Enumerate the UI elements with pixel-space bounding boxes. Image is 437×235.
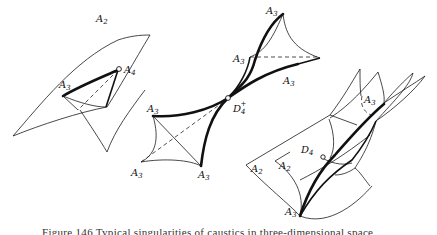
right-surface-d4-minus — [246, 69, 425, 219]
a4-point — [117, 67, 122, 72]
d4-minus-point — [321, 155, 325, 159]
figure-caption: Figure 146 Typical singularities of caus… — [42, 226, 373, 235]
middle-surface-d4-plus — [141, 14, 320, 166]
label-right-a2-right: A2 — [278, 160, 291, 173]
label-right-a2-left: A2 — [250, 163, 263, 176]
label-d4-minus: D4 — [300, 144, 314, 157]
label-right-a3-bottom: A3 — [284, 206, 297, 219]
label-mid-a3-bottom-right: A3 — [197, 169, 210, 182]
label-mid-a3-upper-left: A3 — [232, 53, 245, 66]
label-mid-a3-upper-right: A3 — [282, 75, 295, 88]
label-left-a3: A3 — [58, 79, 71, 92]
label-mid-a3-top: A3 — [265, 5, 278, 18]
label-left-a2: A2 — [95, 13, 108, 26]
label-mid-a3-lower-left: A3 — [146, 103, 159, 116]
label-right-a3-top: A3 — [363, 94, 376, 107]
label-mid-a3-bottom-left: A3 — [130, 167, 143, 180]
left-surface-a4 — [13, 35, 150, 152]
d4-plus-point — [226, 96, 231, 101]
label-d4-plus: D4+ — [232, 100, 247, 116]
caustics-diagram: A2 A3 A4 A3 A3 A3 A3 A3 A3 D4+ A3 D4 A2 … — [0, 0, 437, 235]
label-left-a4: A4 — [123, 64, 136, 77]
